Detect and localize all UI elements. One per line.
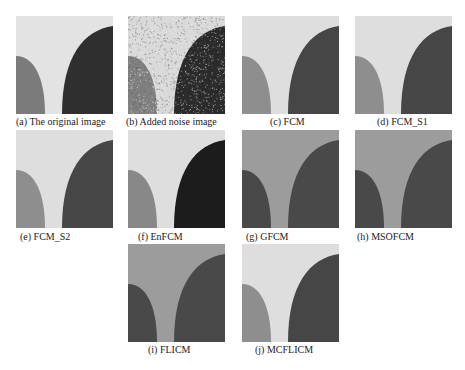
panel-caption-e: (e) FCM_S2 xyxy=(20,231,70,243)
panel-caption-j: (j) MCFLICM xyxy=(255,344,313,356)
panel-caption-a: (a) The original image xyxy=(16,116,106,128)
panel-image-b xyxy=(128,16,225,114)
panel-image-i xyxy=(128,244,225,342)
panel-image-a xyxy=(16,16,113,114)
panel-image-j xyxy=(242,244,339,342)
panel-image-h xyxy=(355,130,452,228)
panel-caption-i: (i) FLICM xyxy=(148,344,191,356)
panel-caption-f: (f) EnFCM xyxy=(138,231,183,243)
panel-image-g xyxy=(242,130,339,228)
panel-image-d xyxy=(355,16,452,114)
panel-image-f xyxy=(128,130,225,228)
panel-image-e xyxy=(16,130,113,228)
panel-caption-h: (h) MSOFCM xyxy=(357,231,414,243)
panel-caption-b: (b) Added noise image xyxy=(126,116,217,128)
panel-caption-g: (g) GFCM xyxy=(246,231,289,243)
panel-caption-d: (d) FCM_S1 xyxy=(377,116,428,128)
panel-image-c xyxy=(242,16,339,114)
panel-caption-c: (c) FCM xyxy=(270,116,305,128)
